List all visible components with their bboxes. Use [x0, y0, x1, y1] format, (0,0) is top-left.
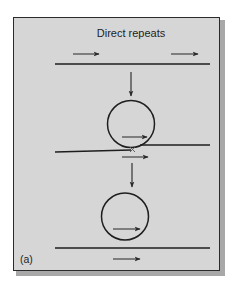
stage-3: [55, 193, 210, 259]
diagram-figure: Direct repeats: [0, 0, 234, 293]
panel-label: (a): [20, 253, 33, 265]
stage-1: [55, 54, 210, 64]
dna-loop: [108, 101, 155, 148]
excised-circle: [102, 193, 149, 240]
dna-line-left-segment: [55, 150, 131, 152]
stage-2: [55, 101, 210, 158]
diagram-canvas: [0, 0, 234, 293]
